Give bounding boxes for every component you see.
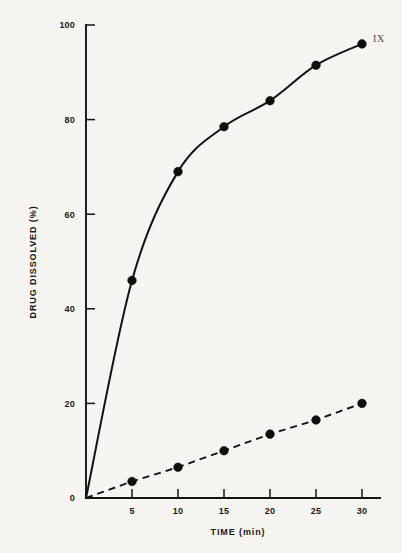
y-tick-label-20: 20 — [65, 399, 75, 409]
y-tick-label-0: 0 — [70, 493, 75, 503]
data-point — [128, 276, 137, 285]
data-point — [312, 61, 321, 70]
data-point — [220, 122, 229, 131]
series-label-ix: IX — [373, 33, 385, 44]
series-solid-markers — [128, 40, 367, 285]
data-point — [174, 167, 183, 176]
figure-root: 020406080100 51015202530 DRUG DISSOLVED … — [0, 0, 402, 553]
series-solid-line — [86, 44, 362, 498]
data-point — [312, 416, 321, 425]
y-tick-label-100: 100 — [59, 20, 75, 30]
x-tick-label-25: 25 — [311, 506, 321, 516]
y-tick-label-40: 40 — [65, 304, 75, 314]
y-axis-title: DRUG DISSOLVED (%) — [28, 205, 38, 318]
dissolution-chart: 020406080100 51015202530 DRUG DISSOLVED … — [0, 0, 402, 553]
axis-group — [86, 25, 380, 498]
x-axis-title: TIME (min) — [211, 527, 266, 537]
data-point — [220, 446, 229, 455]
series-group — [86, 40, 366, 498]
x-axis-ticks: 51015202530 — [129, 489, 367, 516]
data-point — [358, 40, 367, 49]
data-point — [266, 430, 275, 439]
data-point — [358, 399, 367, 408]
x-tick-label-15: 15 — [219, 506, 229, 516]
data-point — [128, 477, 137, 486]
y-tick-label-60: 60 — [65, 210, 75, 220]
x-tick-label-20: 20 — [265, 506, 275, 516]
data-point — [174, 463, 183, 472]
x-tick-label-10: 10 — [173, 506, 183, 516]
x-tick-label-30: 30 — [357, 506, 367, 516]
x-tick-label-5: 5 — [129, 506, 134, 516]
y-axis-ticks: 020406080100 — [59, 20, 95, 503]
data-point — [266, 96, 275, 105]
y-tick-label-80: 80 — [65, 115, 75, 125]
